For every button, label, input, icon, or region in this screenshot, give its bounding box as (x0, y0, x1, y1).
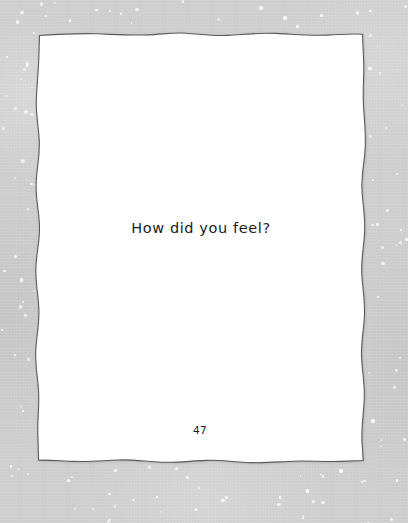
paper-content-area: How did you feel? 47 (40, 34, 362, 458)
journal-prompt-text: How did you feel? (40, 220, 362, 236)
journal-page-scene: How did you feel? 47 (0, 0, 408, 523)
paper-outline-icon (0, 0, 408, 523)
background-texture-weave (0, 0, 408, 523)
page-number: 47 (40, 424, 360, 436)
paper-sheet: How did you feel? 47 (0, 0, 408, 523)
background-texture-mottle (0, 0, 408, 523)
background-speckles (0, 0, 408, 523)
